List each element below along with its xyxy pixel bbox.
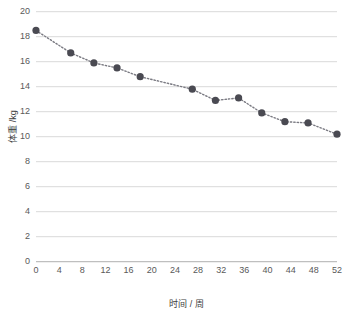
x-tick-label: 48 <box>302 266 326 275</box>
data-point <box>189 86 196 93</box>
y-tick-label: 20 <box>8 7 30 16</box>
y-axis-title: 体重 /kg <box>6 97 19 157</box>
series-line-weight <box>36 30 337 134</box>
data-point <box>67 49 74 56</box>
x-tick: 4 <box>47 266 71 278</box>
data-point <box>304 119 311 126</box>
x-axis-title: 时间 / 周 <box>36 297 337 310</box>
x-tick: 44 <box>279 266 303 278</box>
x-tick: 20 <box>140 266 164 278</box>
weight-over-time-chart: 02468101214161820 0481216202428323640444… <box>0 0 347 319</box>
x-tick-label: 4 <box>47 266 71 275</box>
data-point <box>137 73 144 80</box>
data-line <box>36 30 337 134</box>
y-tick-label: 16 <box>8 57 30 66</box>
data-point <box>281 118 288 125</box>
x-tick-label: 44 <box>279 266 303 275</box>
x-tick-label: 0 <box>24 266 48 275</box>
y-tick-label: 14 <box>8 82 30 91</box>
x-tick: 28 <box>186 266 210 278</box>
y-tick-label: 2 <box>8 232 30 241</box>
x-tick-label: 36 <box>232 266 256 275</box>
series-points-weight <box>32 27 340 138</box>
x-tick: 16 <box>117 266 141 278</box>
gridlines <box>36 12 337 237</box>
y-tick-label: 0 <box>8 257 30 266</box>
x-tick: 40 <box>256 266 280 278</box>
x-tick: 0 <box>24 266 48 278</box>
y-tick-label: 4 <box>8 207 30 216</box>
data-point <box>333 131 340 138</box>
data-point <box>90 59 97 66</box>
x-tick-label: 8 <box>70 266 94 275</box>
x-tick: 52 <box>325 266 347 278</box>
x-tick-label: 24 <box>163 266 187 275</box>
data-point <box>212 97 219 104</box>
x-tick: 12 <box>93 266 117 278</box>
x-tick-label: 12 <box>93 266 117 275</box>
x-tick-label: 20 <box>140 266 164 275</box>
x-tick: 24 <box>163 266 187 278</box>
x-tick: 8 <box>70 266 94 278</box>
x-tick-label: 16 <box>117 266 141 275</box>
x-tick: 36 <box>232 266 256 278</box>
data-point <box>258 109 265 116</box>
x-tick-label: 28 <box>186 266 210 275</box>
y-tick-label: 6 <box>8 182 30 191</box>
x-tick-label: 52 <box>325 266 347 275</box>
data-point <box>235 94 242 101</box>
x-tick-label: 40 <box>256 266 280 275</box>
data-point <box>113 64 120 71</box>
x-tick: 32 <box>209 266 233 278</box>
y-tick-label: 18 <box>8 32 30 41</box>
data-point <box>32 27 39 34</box>
x-tick-label: 32 <box>209 266 233 275</box>
y-tick-label: 8 <box>8 157 30 166</box>
x-tick: 48 <box>302 266 326 278</box>
